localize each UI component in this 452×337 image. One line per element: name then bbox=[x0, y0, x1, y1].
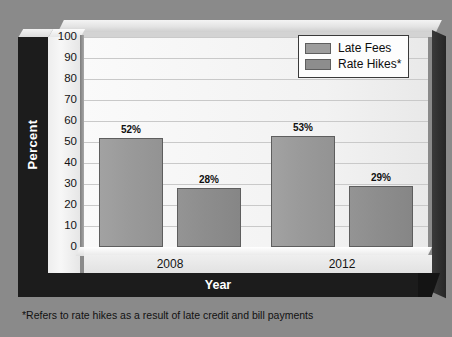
legend-label-late-fees: Late Fees bbox=[338, 41, 391, 55]
y-tick-label: 90 bbox=[47, 52, 77, 64]
y-tick-label: 20 bbox=[47, 199, 77, 211]
chart-floor-top bbox=[84, 247, 428, 255]
bar-value-label: 53% bbox=[271, 122, 335, 133]
legend-label-rate-hikes: Rate Hikes* bbox=[338, 57, 401, 71]
y-axis-title: Percent bbox=[18, 37, 48, 252]
legend-swatch-rate-hikes bbox=[305, 59, 331, 70]
legend-swatch-late-fees bbox=[305, 43, 331, 54]
bar bbox=[99, 138, 163, 247]
y-tick-strip: 0102030405060708090100 bbox=[48, 37, 80, 290]
chart-top-ledge bbox=[58, 20, 442, 32]
bar bbox=[349, 186, 413, 247]
bar-value-label: 28% bbox=[177, 174, 241, 185]
y-tick-label: 80 bbox=[47, 73, 77, 85]
y-tick-label: 0 bbox=[47, 241, 77, 253]
gridline bbox=[84, 121, 428, 122]
y-tick-label: 100 bbox=[47, 31, 77, 43]
y-tick-label: 10 bbox=[47, 220, 77, 232]
y-tick-label: 60 bbox=[47, 115, 77, 127]
bar-chart-figure: Percent 0102030405060708090100 52%28%53%… bbox=[0, 0, 452, 337]
y-axis-title-text: Percent bbox=[26, 120, 41, 170]
chart-footnote: *Refers to rate hikes as a result of lat… bbox=[22, 309, 313, 321]
bar bbox=[271, 136, 335, 247]
y-tick-label: 30 bbox=[47, 178, 77, 190]
x-axis-title-text: Year bbox=[205, 278, 231, 292]
gridline bbox=[84, 79, 428, 80]
x-tick-label: 2008 bbox=[130, 257, 210, 271]
chart-legend: Late Fees Rate Hikes* bbox=[298, 35, 409, 78]
gridline bbox=[84, 100, 428, 101]
legend-item-rate-hikes: Rate Hikes* bbox=[305, 56, 401, 72]
bar-value-label: 52% bbox=[99, 124, 163, 135]
legend-item-late-fees: Late Fees bbox=[305, 40, 401, 56]
x-tick-label: 2012 bbox=[302, 257, 382, 271]
chart-right-3d-face bbox=[432, 30, 446, 298]
y-tick-label: 70 bbox=[47, 94, 77, 106]
y-tick-label: 50 bbox=[47, 136, 77, 148]
y-tick-label: 40 bbox=[47, 157, 77, 169]
x-axis-title: Year bbox=[18, 273, 418, 297]
x-tick-band: 20082012 bbox=[84, 255, 432, 273]
bar-value-label: 29% bbox=[349, 172, 413, 183]
bar bbox=[177, 188, 241, 247]
